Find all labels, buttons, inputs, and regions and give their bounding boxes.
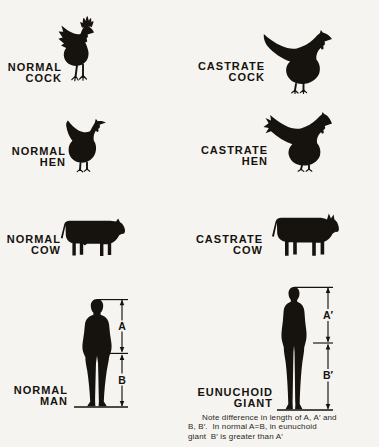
- arrow-down-icon: [120, 401, 125, 407]
- castrate-cow-silhouette: [262, 209, 340, 261]
- note-line: B, B′. In normal A=B, in eunuchoid: [188, 422, 379, 431]
- label-line: NORMAL: [12, 146, 66, 157]
- label-line: COCK: [8, 73, 62, 84]
- arrow-up-icon: [326, 288, 331, 294]
- measure-label-B-prime: B′: [323, 369, 334, 381]
- normal-hen-label: NORMAL HEN: [12, 146, 66, 167]
- castrate-cock-silhouette: [258, 27, 334, 94]
- measure-label-B: B: [118, 374, 126, 386]
- label-line: CASTRATE: [198, 61, 265, 72]
- rooster-legs: [76, 65, 83, 77]
- castrate-hen-label: CASTRATE HEN: [201, 145, 268, 166]
- label-line: NORMAL: [7, 234, 61, 245]
- figure-note: Note difference in length of A, A′ and B…: [188, 413, 379, 441]
- normal-cow-silhouette: [55, 212, 126, 259]
- capon-body: [264, 30, 332, 84]
- castrate-cow-label: CASTRATE COW: [196, 234, 263, 255]
- label-line: EUNUCHOID: [197, 387, 273, 398]
- rooster-body: [58, 25, 94, 66]
- label-line: NORMAL: [8, 62, 62, 73]
- label-line: CASTRATE: [201, 145, 268, 156]
- label-line: COCK: [198, 72, 265, 83]
- normal-man-label: NORMAL MAN: [14, 385, 68, 406]
- rooster-comb-icon: [81, 17, 93, 27]
- arrow-down-icon: [120, 347, 125, 353]
- eunuchoid-giant-silhouette: [281, 287, 306, 409]
- hen-body: [66, 119, 106, 163]
- measure-label-A: A: [118, 320, 126, 332]
- hen-legs: [80, 162, 87, 169]
- castrate-hen-silhouette: [260, 110, 334, 172]
- label-line: COW: [7, 245, 61, 256]
- label-line: CASTRATE: [196, 234, 263, 245]
- arrow-up-icon: [120, 354, 125, 360]
- arrow-up-icon: [120, 300, 125, 306]
- cow-body: [61, 218, 125, 256]
- normal-hen-silhouette: [63, 113, 108, 173]
- long-tailed-bird-body: [263, 112, 332, 166]
- normal-man-silhouette: [82, 299, 111, 406]
- arrow-down-icon: [326, 404, 331, 410]
- arrow-down-icon: [326, 337, 331, 343]
- note-line: giant B′ is greater than A′: [188, 432, 379, 441]
- note-line: Note difference in length of A, A′ and: [188, 413, 379, 422]
- normal-man-figure-group: A B: [70, 297, 132, 411]
- castrate-cock-label: CASTRATE COCK: [198, 61, 265, 82]
- label-line: HEN: [12, 157, 66, 168]
- label-line: NORMAL: [14, 385, 68, 396]
- label-line: MAN: [14, 396, 68, 407]
- eunuchoid-giant-label: EUNUCHOID GIANT: [197, 387, 273, 408]
- label-line: COW: [196, 245, 263, 256]
- label-line: HEN: [201, 156, 268, 167]
- normal-cow-label: NORMAL COW: [7, 234, 61, 255]
- bird-legs: [301, 165, 309, 169]
- ox-body: [272, 213, 339, 255]
- textbook-figure-page: NORMAL COCK CASTRATE COCK NORMAL HEN CAS…: [0, 0, 379, 447]
- arrow-up-icon: [326, 344, 331, 350]
- capon-legs: [295, 84, 304, 90]
- eunuchoid-giant-figure-group: A′ B′: [271, 283, 338, 414]
- measure-label-A-prime: A′: [323, 309, 334, 321]
- normal-cock-label: NORMAL COCK: [8, 62, 62, 83]
- label-line: GIANT: [197, 398, 273, 409]
